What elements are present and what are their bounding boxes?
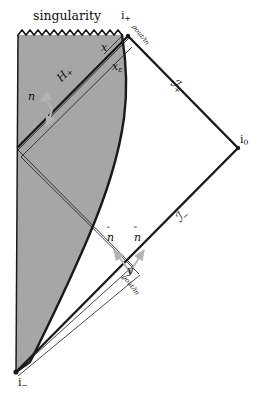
n-hat-letter: n — [107, 231, 114, 244]
i-minus-vertex-dot — [13, 369, 18, 374]
x-epsilon-subscript: ε — [118, 65, 122, 74]
i-zero-label: i0 — [240, 134, 248, 146]
n-tilde-glyph: ̃n — [134, 232, 141, 243]
i-plus-label: i+ — [121, 10, 131, 22]
i-minus-label: i− — [18, 377, 28, 389]
i-zero-subscript: 0 — [244, 138, 249, 147]
i-plus-vertex-dot — [126, 34, 130, 38]
n-tilde-letter: n — [134, 231, 141, 244]
n-hat-glyph: ̂n — [107, 232, 114, 243]
i-plus-subscript: + — [125, 14, 131, 23]
future-null-infinity-line — [128, 36, 238, 148]
x-label: x — [101, 42, 107, 53]
i-zero-vertex-dot — [236, 146, 240, 150]
penrose-diagram-canvas — [0, 0, 261, 405]
i-minus-subscript: − — [22, 381, 28, 390]
n-tilde-label: ̃n — [134, 232, 141, 243]
n-hat-label: ̂n — [107, 232, 114, 243]
penrose-diagram: singularity i+ i0 i− H+ x xε y ℐ+ ℐ− n ̂… — [0, 0, 261, 405]
singularity-line — [18, 30, 122, 35]
x-epsilon-label: xε — [112, 61, 122, 73]
singularity-label: singularity — [33, 10, 101, 23]
normal-vector-label: n — [28, 91, 35, 102]
